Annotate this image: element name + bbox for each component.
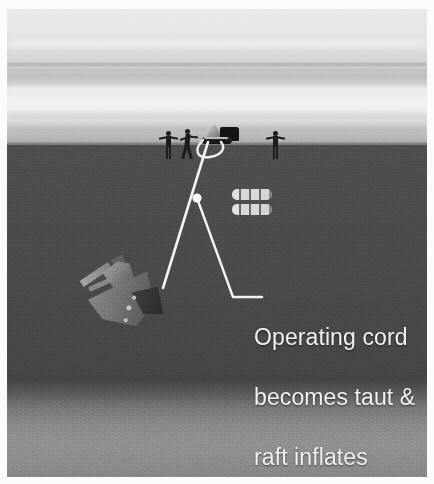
painter-loop	[197, 140, 223, 157]
callout-line-1: Operating cord	[254, 322, 427, 352]
callout-leader-line	[197, 198, 262, 297]
callout-line-3: raft inflates	[254, 442, 427, 472]
photo-plate: Operating cord becomes taut & raft infla…	[7, 9, 427, 477]
callout-line-2: becomes taut &	[254, 382, 427, 412]
operating-cord-callout: Operating cord becomes taut & raft infla…	[254, 292, 427, 477]
callout-marker-dot	[192, 193, 201, 202]
operating-cord-line	[163, 142, 208, 288]
illustration-canvas: Operating cord becomes taut & raft infla…	[0, 0, 434, 484]
